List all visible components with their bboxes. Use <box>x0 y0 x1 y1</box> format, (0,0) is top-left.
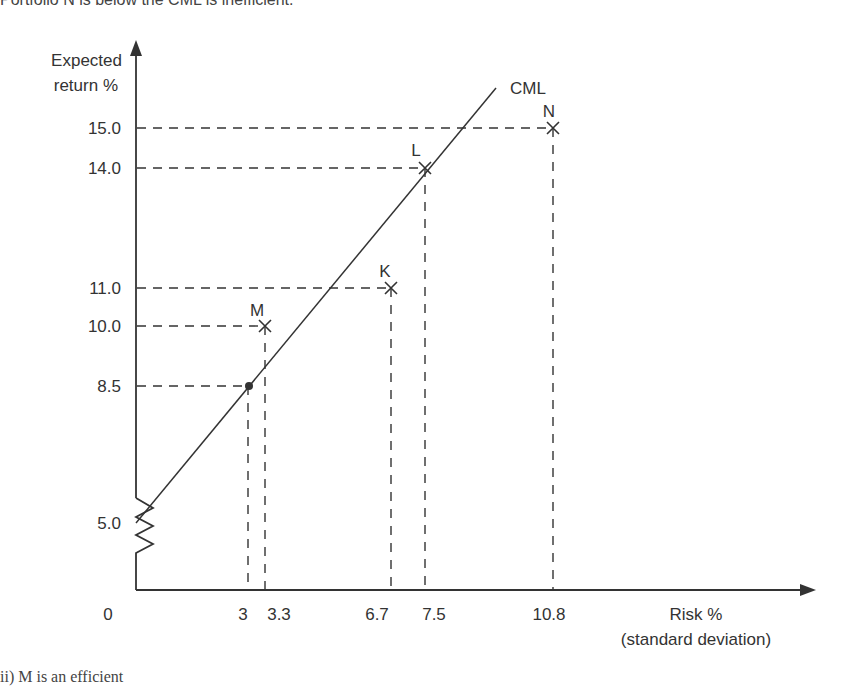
x-axis-title-line2: (standard deviation) <box>621 630 771 649</box>
y-axis-title-line2: return % <box>54 76 118 95</box>
x-axis-title-line1: Risk % <box>670 605 723 624</box>
y-tick-8-5: 8.5 <box>97 377 121 396</box>
x-tick-7-5: 7.5 <box>422 605 446 624</box>
y-axis-arrow-icon <box>130 40 142 56</box>
y-tick-14: 14.0 <box>88 159 121 178</box>
origin-label: 0 <box>103 605 112 624</box>
cml-line <box>136 88 496 523</box>
y-tick-5: 5.0 <box>97 514 121 533</box>
guide-lines <box>137 128 553 590</box>
x-axis-arrow-icon <box>800 584 816 596</box>
x-tick-3: 3 <box>238 605 247 624</box>
point-label-n: N <box>543 102 555 121</box>
y-axis-title-line1: Expected <box>51 51 122 70</box>
point-label-k: K <box>379 262 391 281</box>
y-tick-15: 15.0 <box>88 119 121 138</box>
point-dot-icon <box>245 382 253 390</box>
x-tick-3-3: 3.3 <box>267 605 291 624</box>
point-label-l: L <box>411 141 420 160</box>
cml-label: CML <box>510 79 546 98</box>
caption-bottom: ii) M is an efficient <box>0 668 123 686</box>
y-tick-11: 11.0 <box>89 279 121 298</box>
y-tick-10: 10.0 <box>88 317 121 336</box>
axes <box>136 52 805 590</box>
x-tick-6-7: 6.7 <box>365 605 389 624</box>
point-markers <box>259 122 559 332</box>
point-label-m: M <box>250 301 264 320</box>
x-tick-10-8: 10.8 <box>532 605 565 624</box>
